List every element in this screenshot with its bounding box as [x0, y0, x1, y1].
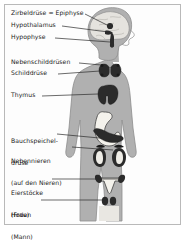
label-thymus: Thymus: [11, 91, 35, 98]
label-parathyroid-glands: Nebenschilddrüsen: [11, 58, 70, 65]
label-pineal-gland: Zirbeldrüse = Epiphyse: [11, 9, 84, 16]
thymus-organ: [98, 85, 118, 104]
label-testes-line1: Hoden: [11, 211, 33, 218]
endocrine-glands-diagram: Zirbeldrüse = Epiphyse Hypothalamus Hypo…: [0, 0, 189, 231]
label-hypophysis: Hypophyse: [11, 33, 46, 40]
pineal-gland-organ: [107, 23, 113, 29]
kidney-right-organ: [112, 148, 126, 167]
testis-right-organ: [110, 197, 116, 205]
label-testes: Hoden (Mann): [11, 196, 33, 231]
testis-left-organ: [102, 197, 108, 205]
label-thyroid-gland: Schilddrüse: [11, 69, 47, 76]
label-hypothalamus: Hypothalamus: [11, 21, 56, 28]
label-adrenal-line1: Nebennieren: [11, 157, 62, 164]
kidney-left-organ: [93, 148, 106, 167]
